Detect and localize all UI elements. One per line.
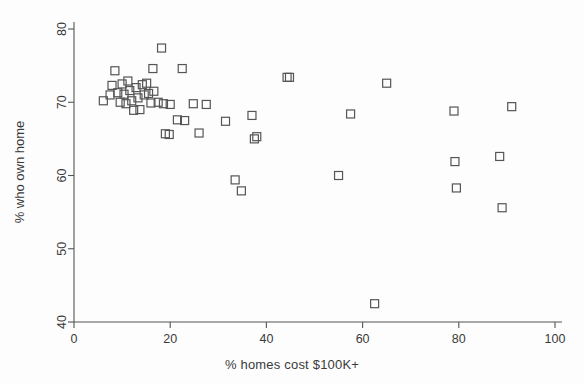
scatter-point — [283, 73, 291, 81]
y-axis-label-text: % who own home — [12, 121, 27, 224]
scatter-point — [498, 204, 506, 212]
x-tick-label: 0 — [71, 332, 78, 346]
y-tick-label: 60 — [55, 169, 69, 183]
scatter-point — [383, 79, 391, 87]
scatter-point — [248, 111, 256, 119]
scatter-point — [452, 184, 460, 192]
x-axis-ticks: 020406080100 — [71, 322, 566, 346]
y-axis-ticks: 4050607080 — [55, 22, 74, 329]
scatter-point — [111, 67, 119, 75]
scatter-point — [347, 110, 355, 118]
x-tick-label: 100 — [545, 332, 566, 346]
plot-area: 4050607080 020406080100 — [0, 0, 584, 384]
scatter-point — [231, 176, 239, 184]
scatter-point — [371, 300, 379, 308]
axes — [74, 22, 562, 322]
y-tick-label: 40 — [55, 315, 69, 329]
y-tick-label: 50 — [55, 242, 69, 256]
y-tick-label: 70 — [55, 95, 69, 109]
scatter-point — [451, 158, 459, 166]
scatter-point — [450, 107, 458, 115]
scatter-point — [124, 77, 132, 85]
scatter-point — [285, 73, 293, 81]
scatter-point — [195, 129, 203, 137]
scatter-point — [335, 172, 343, 180]
scatter-point — [222, 117, 230, 125]
scatter-point — [237, 187, 245, 195]
scatter-point — [149, 65, 157, 73]
x-tick-label: 20 — [163, 332, 177, 346]
x-axis-label: % homes cost $100K+ — [0, 357, 584, 372]
scatter-point — [118, 80, 126, 88]
x-tick-label: 40 — [259, 332, 273, 346]
x-tick-label: 80 — [452, 332, 466, 346]
data-points — [99, 44, 515, 308]
y-axis-label: % who own home — [8, 42, 30, 302]
scatter-point — [250, 135, 258, 143]
scatter-chart: 4050607080 020406080100 % who own home %… — [0, 0, 584, 384]
x-tick-label: 60 — [356, 332, 370, 346]
scatter-point — [189, 100, 197, 108]
y-tick-label: 80 — [55, 22, 69, 36]
scatter-point — [178, 65, 186, 73]
scatter-point — [508, 103, 516, 111]
scatter-point — [496, 152, 504, 160]
scatter-point — [253, 133, 261, 141]
scatter-point — [202, 100, 210, 108]
scatter-point — [158, 44, 166, 52]
scatter-point — [150, 87, 158, 95]
